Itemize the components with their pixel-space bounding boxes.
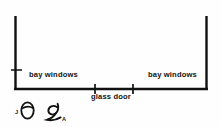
handwritten-theta-glyph xyxy=(21,102,33,118)
annotation-letter-a: A xyxy=(62,117,66,123)
label-bay-windows-right: bay windows xyxy=(148,71,197,79)
handwritten-annotation-group xyxy=(21,102,60,120)
floor-plan-linework xyxy=(0,0,222,127)
floor-plan-diagram: bay windows bay windows glass door J A xyxy=(0,0,222,127)
label-glass-door: glass door xyxy=(91,93,131,101)
annotation-letter-j: J xyxy=(15,110,18,116)
handwritten-spiral-glyph xyxy=(47,104,61,120)
label-bay-windows-left: bay windows xyxy=(29,71,78,79)
